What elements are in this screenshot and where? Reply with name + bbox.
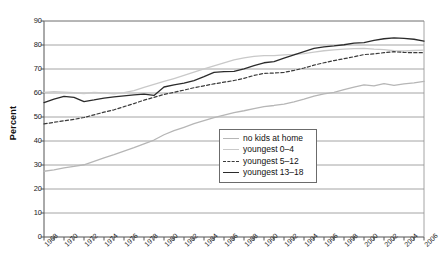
legend-item: youngest 13–18 bbox=[223, 167, 312, 179]
legend-label: no kids at home bbox=[243, 133, 303, 144]
legend-label: youngest 5–12 bbox=[243, 156, 299, 167]
legend-item: youngest 0–4 bbox=[223, 144, 312, 156]
legend-swatch-youngest-0-4 bbox=[223, 149, 239, 150]
chart-figure: Percent 0102030405060708090 no kids at h… bbox=[0, 0, 445, 275]
legend-swatch-no-kids-at-home bbox=[223, 138, 239, 139]
chart-legend: no kids at home youngest 0–4 youngest 5–… bbox=[219, 129, 317, 183]
legend-item: youngest 5–12 bbox=[223, 156, 312, 168]
legend-label: youngest 13–18 bbox=[243, 167, 304, 178]
legend-label: youngest 0–4 bbox=[243, 144, 294, 155]
legend-item: no kids at home bbox=[223, 133, 312, 145]
legend-swatch-youngest-5-12 bbox=[223, 161, 239, 162]
legend-swatch-youngest-13-18 bbox=[223, 172, 239, 173]
